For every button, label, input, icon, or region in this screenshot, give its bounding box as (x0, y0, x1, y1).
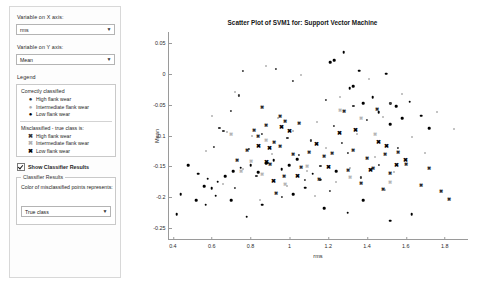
x-axis-tick-label: 1.6 (402, 239, 410, 249)
data-point (436, 111, 438, 113)
data-point: ✖ (351, 148, 355, 153)
data-point (238, 94, 240, 96)
legend-box: Correctly classified ● High flank wear ●… (16, 84, 116, 157)
color-represents-select[interactable]: True class ▼ (21, 206, 111, 217)
classifier-results-description: Color of misclassified points represents… (21, 184, 113, 192)
data-point: ✖ (330, 151, 334, 156)
data-point (358, 70, 361, 73)
chevron-down-icon: ▼ (100, 209, 110, 214)
data-point (261, 203, 264, 206)
data-point (378, 164, 380, 166)
data-point (245, 216, 248, 219)
data-point (271, 153, 273, 155)
data-point: ✖ (287, 130, 292, 136)
data-point: ✖ (239, 169, 243, 174)
legend-item: ✖ High flank wear (21, 132, 115, 140)
x-axis-tick-label: 1 (288, 239, 291, 249)
x-axis-tick-label: 0.4 (169, 239, 177, 249)
data-point (311, 172, 314, 175)
data-point: ✖ (384, 144, 389, 150)
data-point (288, 164, 291, 167)
data-point (286, 137, 288, 139)
data-point (360, 176, 362, 178)
data-point: ✖ (305, 164, 309, 169)
legend-item-label: Intermediate flank wear (35, 104, 89, 110)
data-point (316, 121, 318, 123)
data-point (187, 164, 190, 167)
data-point (401, 117, 404, 120)
checkbox-icon[interactable] (17, 163, 25, 171)
data-point (424, 152, 426, 154)
data-point (304, 187, 307, 190)
data-point (342, 51, 345, 54)
data-point: ✖ (338, 107, 342, 112)
data-point (179, 193, 182, 196)
data-point: ✖ (368, 168, 373, 174)
data-point (277, 117, 279, 119)
data-point: ✖ (267, 146, 272, 152)
y-axis-variable-select[interactable]: Mean ▼ (16, 54, 115, 65)
data-point: ✖ (365, 156, 369, 161)
data-point: ✖ (427, 167, 431, 172)
data-point (205, 203, 208, 206)
data-point: ✖ (314, 142, 319, 148)
x-axis-label: rms (168, 253, 468, 259)
legend-heading-correct: Correctly classified (21, 88, 115, 94)
data-point (255, 174, 257, 176)
data-point (214, 195, 217, 198)
data-point (298, 154, 300, 156)
data-point (222, 129, 224, 131)
data-point (329, 61, 332, 64)
data-point: ✖ (252, 128, 256, 133)
legend-item: ● Low flank wear (21, 111, 115, 119)
chevron-down-icon: ▼ (104, 57, 114, 62)
data-point: ✖ (264, 138, 268, 143)
data-point (213, 145, 215, 147)
y-axis-tick-label: -0.2 (156, 194, 169, 200)
data-point: ✖ (337, 131, 342, 137)
data-point (292, 193, 295, 196)
data-point (393, 171, 395, 173)
data-point: ✖ (342, 109, 346, 114)
show-classifier-results-checkbox[interactable]: Show Classifier Results (17, 163, 89, 171)
data-point: ✖ (260, 171, 264, 176)
data-point (335, 170, 338, 173)
data-point: ✖ (260, 105, 264, 110)
data-point (224, 175, 227, 178)
y-axis-tick-label: 0 (163, 71, 170, 77)
data-point (374, 156, 376, 158)
show-classifier-results-label: Show Classifier Results (28, 164, 89, 170)
data-point (329, 190, 331, 192)
data-point: ✖ (439, 190, 443, 195)
x-axis-tick-label: 1.2 (324, 239, 332, 249)
data-point (428, 127, 431, 130)
data-point: ✖ (396, 150, 400, 155)
data-point (234, 187, 236, 189)
data-point (411, 136, 413, 138)
data-point (395, 105, 398, 108)
data-point (210, 187, 213, 190)
data-point: ✖ (282, 175, 286, 180)
data-point: ✖ (447, 198, 451, 203)
legend-item: ✖ Intermediate flank wear (21, 140, 115, 148)
x-axis-variable-select[interactable]: rms ▼ (16, 24, 115, 35)
data-point: ✖ (283, 181, 287, 186)
data-point: ✖ (371, 167, 375, 172)
legend-item-label: High flank wear (35, 133, 71, 139)
data-point (273, 159, 276, 162)
data-point (222, 183, 224, 185)
legend-item: ✖ Low flank wear (21, 147, 115, 155)
scatter-plot: Scatter Plot of SVM1 for: Support Vector… (130, 0, 481, 288)
data-point (175, 213, 178, 216)
x-axis-variable-value: rms (17, 27, 104, 33)
data-point: ✖ (388, 179, 392, 184)
data-point (265, 162, 268, 165)
chevron-down-icon: ▼ (104, 27, 114, 32)
data-point (397, 147, 399, 149)
data-point (230, 110, 232, 112)
data-point (197, 172, 200, 175)
data-point: ✖ (359, 181, 363, 186)
data-point (261, 133, 263, 135)
data-point (207, 177, 210, 180)
data-point (232, 170, 235, 173)
